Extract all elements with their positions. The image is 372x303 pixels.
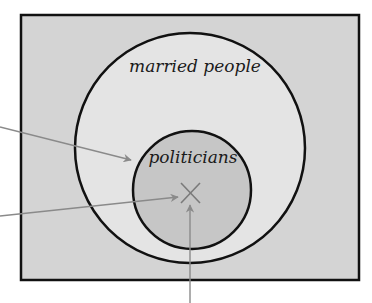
venn-diagram: married people politicians: [0, 0, 372, 303]
politicians-label: politicians: [148, 147, 237, 167]
married-people-label: married people: [129, 56, 261, 76]
